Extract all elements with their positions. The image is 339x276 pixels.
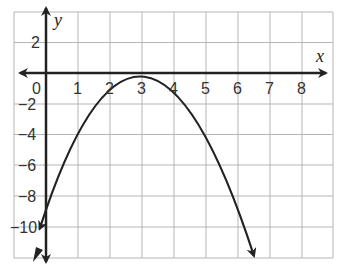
parabola-curve (40, 76, 254, 256)
svg-text:0: 0 (32, 80, 41, 97)
svg-text:4: 4 (169, 80, 178, 97)
svg-text:−8: −8 (18, 188, 36, 205)
svg-text:2: 2 (105, 80, 114, 97)
svg-text:−4: −4 (18, 126, 36, 143)
svg-text:3: 3 (137, 80, 146, 97)
x-tick-labels: 0 1 2 3 4 5 6 7 8 (32, 80, 306, 97)
svg-text:1: 1 (73, 80, 82, 97)
svg-text:5: 5 (201, 80, 210, 97)
svg-text:−6: −6 (18, 157, 36, 174)
y-axis-label: y (52, 10, 62, 30)
svg-text:8: 8 (297, 80, 306, 97)
svg-text:7: 7 (265, 80, 274, 97)
x-axis-label: x (315, 46, 324, 66)
graph: y x 0 1 2 3 4 5 6 7 8 2 −2 −4 −6 −8 −10 (0, 0, 339, 276)
svg-text:2: 2 (31, 34, 40, 51)
svg-text:−10: −10 (10, 219, 37, 236)
grid (14, 12, 333, 258)
svg-text:6: 6 (233, 80, 242, 97)
left-arrowhead (33, 247, 43, 262)
svg-text:−2: −2 (18, 96, 36, 113)
